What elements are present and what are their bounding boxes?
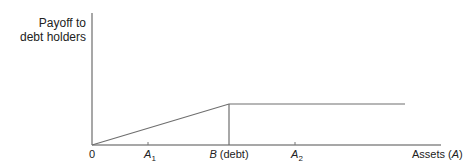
x-axis-label-text: Assets (: [412, 148, 452, 160]
tick-label-a2: A2: [291, 148, 303, 163]
chart-plot: [0, 0, 467, 165]
tick-label-a1: A1: [144, 148, 156, 163]
payoff-line: [92, 104, 405, 145]
tick-b-suffix: (debt): [217, 148, 249, 160]
x-axis-label: Assets (A): [412, 148, 463, 160]
x-axis-label-close: ): [459, 148, 463, 160]
x-axis-label-var: A: [452, 148, 459, 160]
tick-zero-text: 0: [89, 148, 95, 160]
tick-a2-sub: 2: [298, 154, 302, 163]
tick-a1-sub: 1: [151, 154, 155, 163]
tick-label-b: B (debt): [209, 148, 248, 160]
tick-label-zero: 0: [89, 148, 95, 160]
